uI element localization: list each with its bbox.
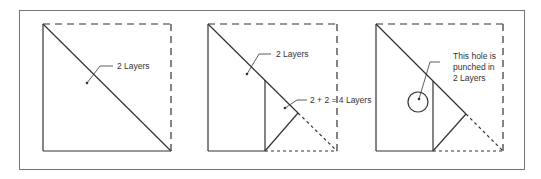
panel-2-label-bottom: 2 + 2 = 4 Layers: [310, 95, 371, 105]
panel-3-label-line-1: This hole is: [453, 51, 496, 61]
panel-2-label-top: 2 Layers: [276, 49, 309, 59]
panel-3-label-line-2: punched in: [453, 62, 495, 72]
panel-1: 2 Layers: [43, 24, 171, 151]
paper-folding-diagram: 2 Layers 2 Layers 2 + 2 = 4 Layers This …: [0, 0, 541, 179]
panel-1-label: 2 Layers: [117, 61, 150, 71]
diagonal-fold: [43, 24, 171, 151]
outer-frame: [20, 11, 525, 170]
panel-3-label-line-3: 2 Layers: [453, 73, 486, 83]
panel-2: 2 Layers 2 + 2 = 4 Layers: [208, 24, 371, 151]
panel-3: This hole is punched in 2 Layers: [376, 24, 503, 151]
punched-hole-icon: [408, 92, 428, 112]
